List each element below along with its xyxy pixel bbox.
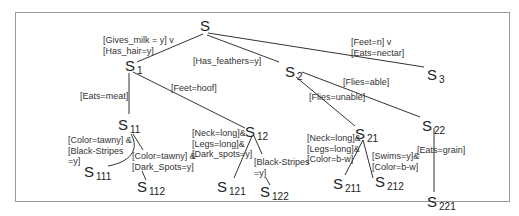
node-s211: S211 [333, 176, 361, 194]
edge-label-s11-s112: [Color=tawny] & [Dark_Spots=y] [132, 151, 196, 172]
node-s1: S1 [125, 58, 143, 76]
edge-label-s-s1: [Gives_milk = y] v [Has_hair=y] [103, 35, 174, 56]
node-s3: S3 [427, 67, 445, 85]
node-s221: S221 [427, 194, 456, 212]
edge-label-s12-s122: [Black-Stripes =y] [254, 157, 310, 178]
edge-label-s21-s212: [Swims=y]& [Color=b-w] [372, 151, 419, 172]
node-s112: S112 [137, 179, 165, 197]
node-s212: S212 [375, 174, 404, 192]
node-s2: S2 [285, 64, 303, 82]
edge-label-s-s2: [Has_feathers=y] [193, 56, 261, 67]
node-s122: S122 [260, 184, 289, 202]
node-s22: S22 [422, 118, 445, 136]
edge-label-s12-s121: [Neck=long]& [Legs=long]& [Dark_spots=y] [192, 128, 252, 160]
node-s111: S111 [84, 164, 111, 182]
edge-label-s2-s21: [Flies=unable] [309, 92, 365, 103]
node-s11: S11 [118, 117, 140, 135]
edge-label-s-s3: [Feet=n] v [Eats=nectar] [351, 37, 404, 58]
edge-label-s22-s221: [Eats=grain] [417, 145, 465, 156]
edge-label-s1-s11: [Eats=meat] [80, 91, 128, 102]
node-s: S [200, 18, 212, 36]
node-s121: S121 [217, 179, 246, 197]
edge-label-s1-s12: [Feet=hoof] [171, 83, 217, 94]
edge-label-s21-s211: [Neck=long]& [Legs=long]& [Color=b-w] [307, 133, 361, 165]
edge-s1-s12 [133, 72, 245, 128]
edge-label-s2-s22: [Flies=able] [343, 77, 389, 88]
edge-label-s11-s111: [Color=tawny] & [Black-Stripes =y] [68, 135, 132, 167]
